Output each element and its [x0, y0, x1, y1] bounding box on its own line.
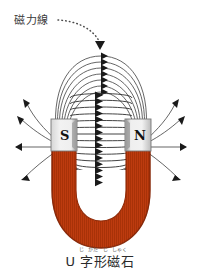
- caption-ruby-3: じ: [103, 246, 108, 252]
- pole-label-north: N: [134, 128, 146, 143]
- pole-block-south: S: [51, 119, 77, 151]
- caption-ruby-2: がた: [88, 246, 98, 253]
- pole-label-south: S: [60, 128, 69, 143]
- field-lines-label: 磁力線: [14, 13, 49, 27]
- magnet-field-diagram: S N 磁力線 じ がた じ しゃく U 字形磁石: [0, 0, 201, 275]
- pole-block-north: N: [125, 119, 151, 151]
- caption-ruby-4: しゃく: [112, 246, 128, 253]
- caption-ruby-1: じ: [79, 246, 84, 252]
- figure-caption: U 字形磁石: [65, 254, 134, 269]
